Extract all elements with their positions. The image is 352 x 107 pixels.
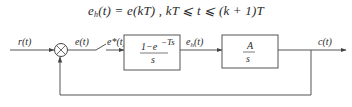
block-diagram: r(t) e(t) e*(t) 1−e −Ts s eh(t) A s c(t) [0,0,352,107]
error-label: e(t) [75,36,90,48]
plant-block-denominator: s [246,53,250,64]
sampler-switch [96,44,106,50]
hold-block-numerator: 1−e [141,41,158,52]
plant-block-numerator: A [246,40,254,51]
summing-junction [55,44,68,57]
hold-block-denominator: s [151,54,155,65]
output-label: c(t) [318,36,333,48]
hold-output-label: eh(t) [186,36,204,49]
hold-block-exponent: −Ts [161,37,175,47]
input-label: r(t) [18,36,32,48]
